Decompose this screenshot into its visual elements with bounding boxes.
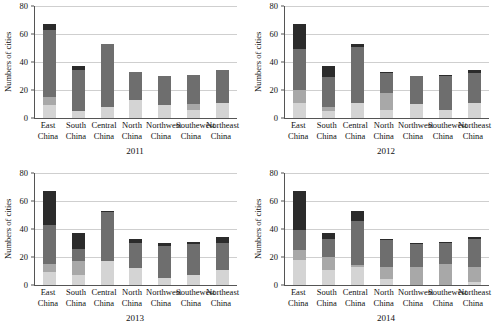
x-tick-label: NorthwestChina	[398, 287, 428, 309]
bar-segment-segment-4	[351, 211, 364, 221]
bar-segment-segment-3	[468, 239, 481, 267]
y-axis-title: Numbers of cities	[1, 173, 15, 285]
bar-segment-segment-4	[293, 24, 306, 49]
bar-segment-segment-3	[410, 76, 423, 104]
bar-south-china	[72, 6, 85, 118]
bar-segment-segment-3	[101, 44, 114, 107]
bar-segment-segment-3	[439, 243, 452, 264]
bar-group	[35, 6, 237, 118]
panel-title-year: 2013	[34, 313, 236, 323]
bar-east-china	[43, 173, 56, 285]
y-tick-label: 60	[270, 197, 279, 206]
bar-southewest-china	[439, 173, 452, 285]
y-tick-label: 20	[20, 86, 29, 95]
x-axis-labels: EastChinaSouthChinaCentralChinaNorthChin…	[34, 287, 236, 313]
bar-segment-segment-3	[72, 70, 85, 111]
y-tick-label: 0	[274, 114, 278, 123]
bar-segment-segment-1	[43, 105, 56, 118]
bar-segment-segment-1	[293, 260, 306, 285]
y-tick-label: 60	[20, 30, 29, 39]
bar-segment-segment-1	[129, 268, 142, 285]
panel-title-year: 2012	[284, 146, 488, 156]
bar-segment-segment-3	[380, 240, 393, 267]
x-tick-label: CentralChina	[90, 287, 118, 309]
panel-title-year: 2011	[34, 146, 236, 156]
bar-segment-segment-3	[351, 221, 364, 266]
x-tick-label: NorthwestChina	[146, 120, 176, 142]
x-tick-label: NorthwestChina	[146, 287, 176, 309]
bar-segment-segment-1	[216, 270, 229, 285]
y-tick-label: 80	[20, 169, 29, 178]
bar-central-china	[351, 173, 364, 285]
bar-segment-segment-3	[380, 73, 393, 93]
x-tick-label: SouthewestChina	[428, 120, 458, 142]
x-tick-label: CentralChina	[341, 287, 370, 309]
bar-segment-segment-1	[322, 111, 335, 118]
bar-segment-segment-2	[439, 264, 452, 285]
y-tick-label: 40	[270, 58, 279, 67]
bar-group	[285, 173, 489, 285]
x-tick-label: SouthewestChina	[428, 287, 458, 309]
x-tick-label: CentralChina	[341, 120, 370, 142]
bar-segment-segment-2	[322, 257, 335, 270]
bar-segment-segment-1	[351, 267, 364, 285]
y-tick-label: 20	[270, 86, 279, 95]
bar-segment-segment-1	[468, 282, 481, 285]
x-tick-label: SouthChina	[62, 120, 90, 142]
bar-segment-segment-2	[468, 267, 481, 282]
bar-segment-segment-3	[322, 77, 335, 106]
bar-segment-segment-1	[187, 110, 200, 118]
y-tick-label: 20	[20, 253, 29, 262]
bar-northwest-china	[158, 6, 171, 118]
bar-segment-segment-2	[410, 267, 423, 285]
panel-title-year: 2014	[284, 313, 488, 323]
bar-segment-segment-3	[158, 246, 171, 278]
x-tick-label: NortheastChina	[458, 287, 488, 309]
bar-group	[35, 173, 237, 285]
x-tick-label: NortheastChina	[458, 120, 488, 142]
x-tick-label: SouthChina	[313, 287, 342, 309]
bar-northeast-china	[468, 173, 481, 285]
bar-segment-segment-1	[101, 107, 114, 118]
bar-segment-segment-4	[322, 66, 335, 77]
bar-segment-segment-1	[468, 103, 481, 118]
bar-segment-segment-1	[380, 110, 393, 118]
bar-segment-segment-3	[351, 47, 364, 103]
x-tick-label: NorthwestChina	[398, 120, 428, 142]
bar-segment-segment-3	[43, 225, 56, 264]
bar-segment-segment-3	[158, 76, 171, 105]
bar-segment-segment-2	[293, 250, 306, 260]
bar-northeast-china	[216, 173, 229, 285]
bar-segment-segment-3	[101, 212, 114, 261]
plot-area	[284, 6, 489, 119]
x-tick-label: SouthewestChina	[176, 120, 206, 142]
y-tick-label: 60	[270, 30, 279, 39]
plot-area	[34, 6, 237, 119]
bar-segment-segment-2	[293, 90, 306, 103]
plot-area	[34, 173, 237, 286]
bar-southewest-china	[439, 6, 452, 118]
bar-northeast-china	[468, 6, 481, 118]
x-tick-label: EastChina	[284, 287, 313, 309]
bar-segment-segment-1	[410, 104, 423, 118]
bar-segment-segment-3	[439, 76, 452, 110]
bar-segment-segment-1	[351, 103, 364, 118]
x-axis-labels: EastChinaSouthChinaCentralChinaNorthChin…	[284, 120, 488, 146]
y-axis-ticks: 020406080	[265, 6, 281, 118]
bar-segment-segment-3	[187, 75, 200, 104]
chart-panel-2011: Numbers of cities020406080EastChinaSouth…	[0, 0, 250, 165]
y-tick-label: 0	[274, 281, 278, 290]
bar-segment-segment-1	[72, 275, 85, 285]
x-axis-labels: EastChinaSouthChinaCentralChinaNorthChin…	[284, 287, 488, 313]
y-axis-title: Numbers of cities	[251, 173, 265, 285]
x-tick-label: NorthChina	[118, 287, 146, 309]
y-tick-label: 0	[24, 114, 28, 123]
y-axis-ticks: 020406080	[15, 6, 31, 118]
x-tick-label: NorthChina	[370, 120, 399, 142]
bar-south-china	[72, 173, 85, 285]
bar-northwest-china	[158, 173, 171, 285]
bar-south-china	[322, 6, 335, 118]
x-tick-label: SouthChina	[313, 120, 342, 142]
chart-panel-2014: Numbers of cities020406080EastChinaSouth…	[250, 165, 501, 329]
x-tick-label: EastChina	[34, 120, 62, 142]
